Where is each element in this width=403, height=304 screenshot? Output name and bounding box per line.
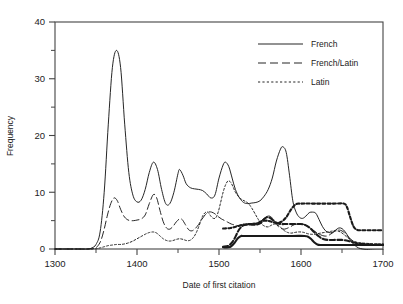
x-tick-label: 1300: [44, 258, 65, 269]
x-tick-label: 1500: [208, 258, 229, 269]
y-tick-label: 0: [40, 243, 45, 254]
legend-label-dashed: French/Latin: [311, 58, 359, 68]
y-tick-label: 30: [34, 73, 45, 84]
chart-figure: 13001400150016001700 010203040 Date of f…: [0, 0, 403, 304]
y-axis-label: Frequency: [5, 115, 15, 156]
y-tick-label: 20: [34, 130, 45, 141]
y-tick-label: 10: [34, 187, 45, 198]
legend-label-dotted: Latin: [311, 77, 330, 87]
y-tick-label: 40: [34, 16, 45, 27]
chart-canvas: 13001400150016001700 010203040 Date of f…: [0, 0, 403, 304]
x-tick-label: 1600: [290, 258, 311, 269]
legend-label-solid: French: [311, 39, 338, 49]
x-axis-label: Date of first citation: [183, 280, 256, 290]
x-tick-label: 1700: [372, 258, 393, 269]
x-tick-label: 1400: [126, 258, 147, 269]
